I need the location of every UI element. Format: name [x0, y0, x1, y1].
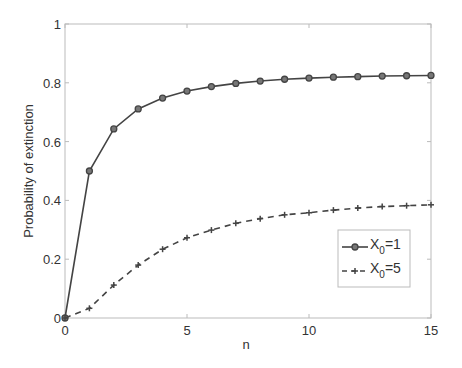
- circle-marker: [184, 88, 190, 94]
- circle-marker: [306, 75, 312, 81]
- axis-ticks: 05101500.20.40.60.81: [43, 17, 438, 338]
- y-tick-label: 0.2: [43, 252, 61, 267]
- x-axis-label: n: [242, 337, 249, 352]
- circle-marker: [352, 244, 358, 250]
- circle-marker: [355, 74, 361, 80]
- circle-marker: [330, 74, 336, 80]
- y-tick-label: 0.8: [43, 76, 61, 91]
- x-tick-label: 5: [183, 323, 190, 338]
- y-tick-label: 0: [54, 311, 61, 326]
- circle-marker: [135, 106, 141, 112]
- legend: X0=1X0=5: [338, 230, 410, 287]
- circle-marker: [233, 80, 239, 86]
- circle-marker: [404, 73, 410, 79]
- y-tick-label: 0.6: [43, 135, 61, 150]
- circle-marker: [379, 73, 385, 79]
- y-axis-label: Probability of extinction: [21, 104, 36, 238]
- y-tick-label: 1: [54, 17, 61, 32]
- x-tick-label: 0: [61, 323, 68, 338]
- circle-marker: [111, 126, 117, 132]
- circle-marker: [86, 168, 92, 174]
- x-tick-label: 15: [424, 323, 438, 338]
- circle-marker: [428, 72, 434, 78]
- circle-marker: [282, 76, 288, 82]
- y-tick-label: 0.4: [43, 193, 61, 208]
- x-tick-label: 10: [302, 323, 316, 338]
- extinction-probability-chart: 05101500.20.40.60.81 n Probability of ex…: [0, 0, 462, 368]
- circle-marker: [257, 78, 263, 84]
- circle-marker: [208, 84, 214, 90]
- circle-marker: [160, 95, 166, 101]
